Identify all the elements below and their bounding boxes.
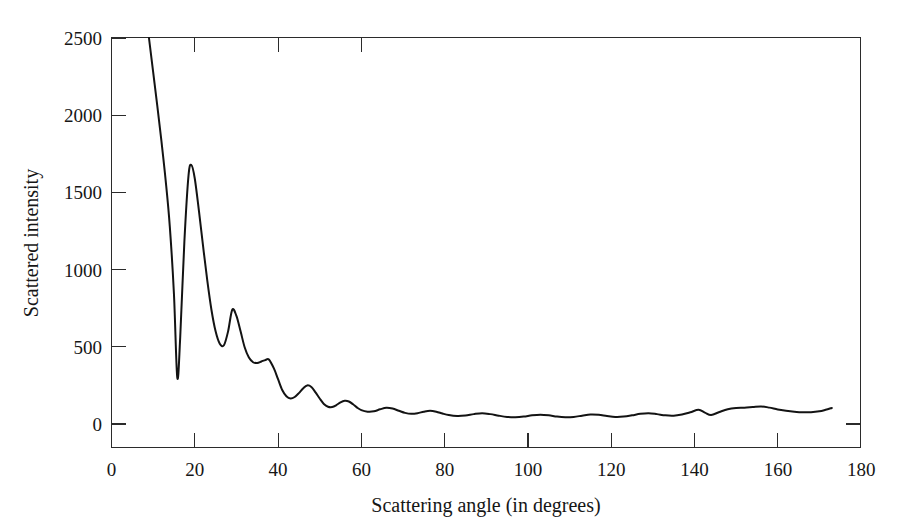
data-series-line (149, 38, 832, 417)
x-tick-label-0: 0 (107, 459, 117, 480)
x-tick-label-120: 120 (597, 459, 626, 480)
y-tick-label-0: 0 (93, 414, 103, 435)
x-tick-label-80: 80 (435, 459, 454, 480)
x-tick-label-160: 160 (764, 459, 793, 480)
y-tick-label-1500: 1500 (64, 182, 102, 203)
x-tick-label-40: 40 (269, 459, 288, 480)
scattering-intensity-figure: 2500 2000 1500 1000 500 0 0 20 40 (0, 0, 908, 529)
y-axis-tick-labels: 2500 2000 1500 1000 500 0 (64, 28, 102, 435)
x-axis-ticks (195, 38, 861, 448)
x-axis-title: Scattering angle (in degrees) (371, 494, 600, 517)
x-tick-label-140: 140 (680, 459, 709, 480)
y-tick-label-2000: 2000 (64, 105, 102, 126)
plot-frame (111, 38, 861, 448)
chart-canvas: 2500 2000 1500 1000 500 0 0 20 40 (0, 0, 908, 529)
x-tick-label-60: 60 (352, 459, 371, 480)
x-axis-tick-labels: 0 20 40 60 80 100 120 140 160 180 (107, 459, 876, 480)
x-tick-label-100: 100 (514, 459, 543, 480)
y-tick-label-1000: 1000 (64, 260, 102, 281)
y-tick-label-500: 500 (74, 337, 103, 358)
y-axis-ticks (112, 38, 127, 424)
y-axis-title: Scattered intensity (20, 169, 43, 317)
x-tick-label-180: 180 (847, 459, 876, 480)
x-tick-label-20: 20 (185, 459, 204, 480)
y-tick-label-2500: 2500 (64, 28, 102, 49)
